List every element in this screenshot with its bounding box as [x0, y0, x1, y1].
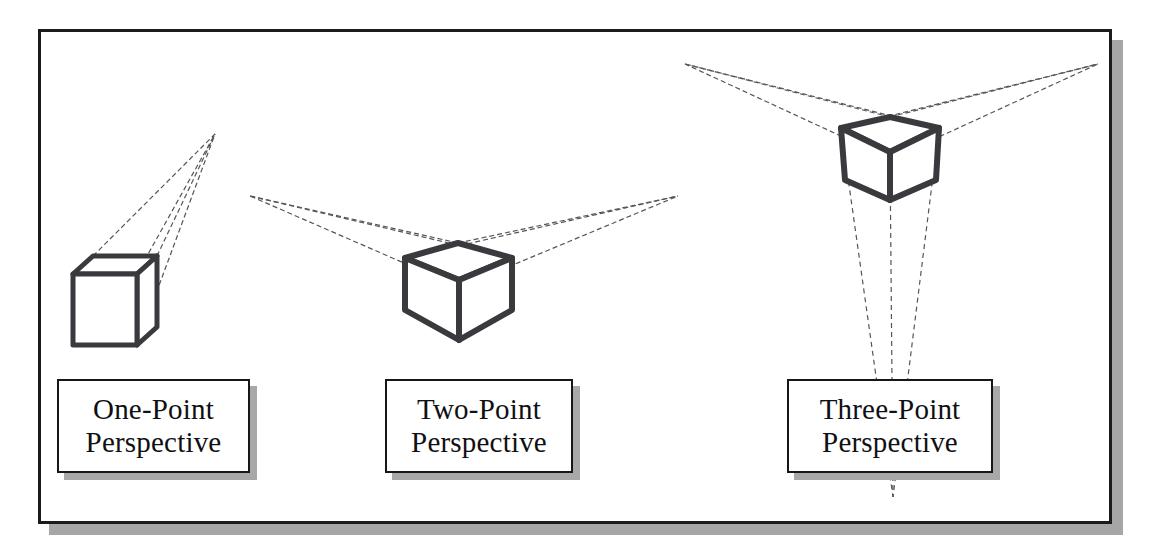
label-one-point-line2: Perspective	[86, 426, 222, 459]
label-box-two-point: Two-Point Perspective	[385, 379, 573, 473]
label-three-point-line1: Three-Point	[820, 393, 961, 426]
label-box-one-point: One-Point Perspective	[57, 379, 250, 473]
label-three-point-line2: Perspective	[822, 426, 958, 459]
label-two-point-line1: Two-Point	[417, 393, 541, 426]
label-one-point-line1: One-Point	[93, 393, 214, 426]
label-two-point-line2: Perspective	[411, 426, 547, 459]
figure-page: One-Point Perspective Two-Point Perspect…	[0, 0, 1153, 558]
label-box-three-point: Three-Point Perspective	[787, 379, 993, 473]
